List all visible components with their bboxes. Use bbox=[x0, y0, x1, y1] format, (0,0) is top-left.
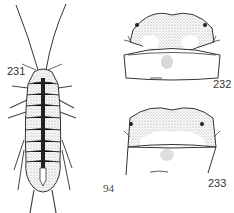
figure-label-233: 233 bbox=[208, 178, 226, 189]
head-figure-232 bbox=[124, 13, 220, 80]
insect-figure-231 bbox=[8, 4, 76, 213]
page-number: 94 bbox=[103, 182, 114, 194]
head-figure-233 bbox=[124, 108, 220, 175]
figure-label-232: 232 bbox=[213, 79, 231, 90]
figure-label-231: 231 bbox=[7, 66, 25, 77]
illustration-plate bbox=[0, 0, 234, 213]
